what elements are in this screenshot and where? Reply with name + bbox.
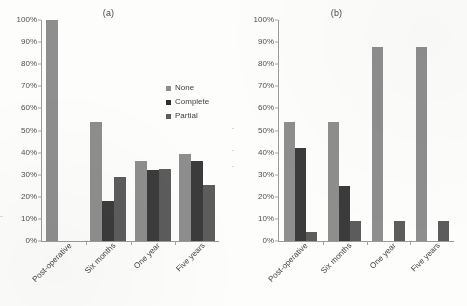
y-tick-mark [38, 108, 41, 109]
y-tick-label: 0% [25, 237, 37, 245]
x-tick-label: Post-operative [31, 242, 73, 284]
bar-none [135, 161, 147, 241]
y-tick-mark [38, 64, 41, 65]
bar-none [90, 122, 102, 241]
y-tick-mark [38, 130, 41, 131]
bar-group [42, 20, 86, 241]
bar-partial [306, 232, 317, 241]
legend-label-complete: Complete [175, 98, 209, 106]
y-tick-mark [275, 130, 278, 131]
y-tick-label: 100% [254, 16, 274, 24]
figure-root: (a) 0%10%20%30%40%50%60%70%80%90%100% Po… [0, 0, 467, 306]
chart-panel-b: (b) 0%10%20%30%40%50%60%70%80%90%100% Po… [234, 0, 467, 306]
scan-speck [232, 150, 234, 151]
bar-none [46, 20, 58, 241]
bar-none [416, 47, 427, 241]
x-tick-label: Six months [84, 242, 118, 276]
bar-partial [203, 185, 215, 241]
bar-group [323, 20, 367, 241]
bar-partial [438, 221, 449, 241]
chart-legend: None Complete Partial [166, 84, 209, 120]
y-tick-label: 70% [258, 82, 274, 90]
y-tick-mark [38, 152, 41, 153]
x-tick-label: One year [133, 242, 162, 271]
legend-swatch-complete-icon [166, 100, 171, 105]
y-tick-label: 30% [258, 171, 274, 179]
bar-none [179, 154, 191, 241]
y-tick-mark [275, 64, 278, 65]
scan-speck [0, 216, 3, 217]
x-tick-label-cell: One year [366, 244, 410, 304]
bar-complete [147, 170, 159, 241]
legend-swatch-partial-icon [166, 114, 171, 119]
legend-item-complete: Complete [166, 98, 209, 106]
y-tick-label: 40% [21, 149, 37, 157]
y-tick-label: 0% [262, 237, 274, 245]
scan-speck [232, 128, 234, 129]
y-tick-mark [275, 20, 278, 21]
y-tick-mark [38, 86, 41, 87]
y-tick-label: 50% [258, 127, 274, 135]
bar-complete [339, 186, 350, 241]
x-tick-label: Post-operative [268, 242, 310, 284]
x-tick-label: Five years [175, 242, 207, 274]
bar-group [367, 20, 411, 241]
bar-partial [394, 221, 405, 241]
y-tick-mark [275, 86, 278, 87]
y-tick-label: 80% [21, 60, 37, 68]
y-tick-label: 20% [258, 193, 274, 201]
y-tick-mark [275, 152, 278, 153]
y-tick-label: 70% [21, 82, 37, 90]
bar-complete [295, 148, 306, 241]
y-tick-label: 60% [21, 104, 37, 112]
y-tick-mark [38, 42, 41, 43]
x-tick-label-cell: Six months [86, 244, 131, 304]
panel-a-x-tick-labels: Post-operativeSix monthsOne yearFive yea… [41, 244, 219, 304]
y-tick-label: 20% [21, 193, 37, 201]
bar-partial [159, 169, 171, 241]
y-tick-label: 50% [21, 127, 37, 135]
x-tick-label: Five years [410, 242, 442, 274]
panel-a-bar-groups [42, 20, 219, 241]
x-tick-label-cell: Post-operative [41, 244, 86, 304]
x-tick-label-cell: Six months [322, 244, 366, 304]
y-tick-mark [38, 196, 41, 197]
bar-none [284, 122, 295, 241]
legend-label-partial: Partial [175, 112, 198, 120]
scan-speck [232, 166, 234, 167]
y-tick-label: 10% [258, 215, 274, 223]
y-tick-label: 80% [258, 60, 274, 68]
x-tick-label-cell: Five years [175, 244, 220, 304]
legend-swatch-none-icon [166, 86, 171, 91]
bar-group [175, 20, 219, 241]
y-tick-mark [38, 20, 41, 21]
y-tick-mark [275, 218, 278, 219]
panel-a-plot-area: 0%10%20%30%40%50%60%70%80%90%100% [41, 20, 219, 242]
y-tick-mark [275, 174, 278, 175]
bar-group [279, 20, 323, 241]
y-tick-label: 100% [17, 16, 37, 24]
y-tick-label: 40% [258, 149, 274, 157]
bar-partial [114, 177, 126, 241]
bar-partial [350, 221, 361, 241]
panel-b-plot-area: 0%10%20%30%40%50%60%70%80%90%100% [278, 20, 454, 242]
chart-panel-a: (a) 0%10%20%30%40%50%60%70%80%90%100% Po… [0, 0, 233, 306]
y-tick-label: 90% [21, 38, 37, 46]
bar-none [372, 47, 383, 241]
bar-group [410, 20, 454, 241]
x-tick-label: One year [369, 242, 398, 271]
legend-label-none: None [175, 84, 194, 92]
y-tick-label: 60% [258, 104, 274, 112]
x-tick-label-cell: Post-operative [278, 244, 322, 304]
y-tick-label: 90% [258, 38, 274, 46]
panel-b-x-tick-labels: Post-operativeSix monthsOne yearFive yea… [278, 244, 454, 304]
x-tick-label-cell: One year [130, 244, 175, 304]
legend-item-partial: Partial [166, 112, 209, 120]
bar-none [328, 122, 339, 241]
y-tick-mark [275, 42, 278, 43]
y-tick-mark [38, 218, 41, 219]
legend-item-none: None [166, 84, 209, 92]
x-tick-label: Six months [320, 242, 354, 276]
y-tick-mark [275, 108, 278, 109]
y-tick-mark [275, 196, 278, 197]
